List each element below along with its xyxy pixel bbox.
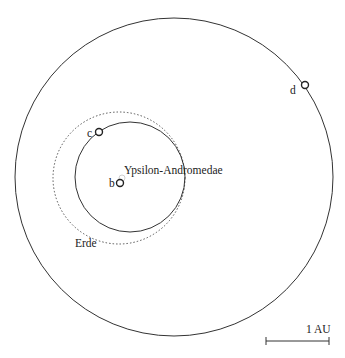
star-label: Ypsilon-Andromedae (124, 164, 223, 177)
scale-label: 1 AU (306, 323, 331, 335)
earth-label: Erde (75, 237, 97, 249)
planet-c-label: c (87, 127, 92, 139)
planet-c-icon (96, 129, 103, 136)
planet-d-icon (302, 82, 309, 89)
orbit-d (15, 18, 333, 336)
scale-bar: 1 AU (266, 323, 331, 345)
planet-b-icon (117, 180, 124, 187)
planet-d-label: d (290, 84, 296, 96)
planet-b-label: b (109, 177, 115, 189)
orbit-diagram: Ypsilon-Andromedae b c d Erde 1 AU (0, 0, 345, 358)
